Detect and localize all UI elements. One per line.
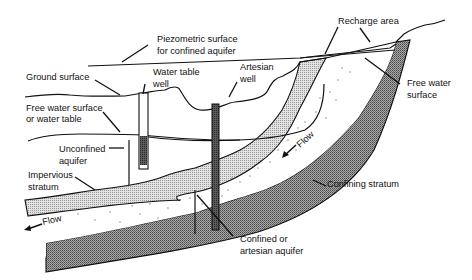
label-recharge-area: Recharge area	[338, 16, 400, 26]
label-water-table-well-2: well	[152, 79, 169, 89]
label-artesian-well-1: Artesian	[240, 62, 274, 72]
label-impervious-stratum-2: stratum	[28, 182, 59, 192]
label-artesian-well-2: well	[239, 74, 256, 84]
label-confining-stratum: Confining stratum	[327, 179, 399, 189]
label-unconfined-aquifer-2: aquifer	[59, 156, 87, 166]
label-ground-surface: Ground surface	[26, 72, 89, 82]
label-piezometric-1: Piezometric surface	[157, 34, 238, 44]
label-free-water-left-2: or water table	[26, 114, 82, 124]
water-table-well-screen	[140, 136, 147, 165]
label-impervious-stratum-1: Impervious	[28, 170, 73, 180]
aquifer-diagram: Piezometric surface for confined aquifer…	[0, 0, 472, 280]
label-unconfined-aquifer-1: Unconfined	[59, 144, 105, 154]
label-confined-aquifer-1: Confined or	[240, 234, 288, 244]
label-free-water-left-1: Free water surface	[26, 103, 103, 113]
label-water-table-well-1: Water table	[153, 67, 200, 77]
label-piezometric-2: for confined aquifer	[157, 46, 236, 56]
artesian-well-casing	[212, 104, 219, 230]
label-free-water-right-2: surface	[407, 90, 437, 100]
label-free-water-right-1: Free water	[407, 78, 451, 88]
label-confined-aquifer-2: artesian aquifer	[240, 246, 303, 256]
